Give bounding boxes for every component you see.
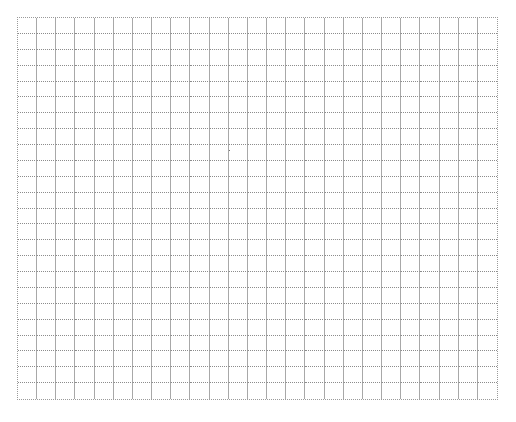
grid-cell bbox=[459, 177, 478, 193]
grid-cell bbox=[305, 256, 324, 272]
grid-cell bbox=[210, 256, 229, 272]
grid-cell bbox=[420, 336, 439, 352]
grid-cell bbox=[152, 161, 171, 177]
grid-cell bbox=[382, 145, 401, 161]
grid-cell bbox=[114, 177, 133, 193]
grid-cell bbox=[133, 193, 152, 209]
grid-cell bbox=[248, 97, 267, 113]
grid-cell bbox=[133, 50, 152, 66]
grid-cell bbox=[363, 367, 382, 383]
grid-cell bbox=[305, 320, 324, 336]
grid-cell bbox=[18, 320, 37, 336]
grid-cell bbox=[382, 304, 401, 320]
grid-cell bbox=[114, 193, 133, 209]
grid-cell bbox=[114, 82, 133, 98]
grid-cell bbox=[267, 66, 286, 82]
grid-cell bbox=[248, 113, 267, 129]
grid-cell bbox=[286, 66, 305, 82]
grid-cell bbox=[363, 34, 382, 50]
grid-cell bbox=[286, 320, 305, 336]
grid-cell bbox=[267, 288, 286, 304]
grid-cell bbox=[286, 272, 305, 288]
grid-cell bbox=[459, 193, 478, 209]
grid-cell bbox=[56, 50, 75, 66]
grid-cell bbox=[401, 367, 420, 383]
grid-cell bbox=[18, 82, 37, 98]
grid-cell bbox=[114, 272, 133, 288]
grid-cell bbox=[440, 97, 459, 113]
grid-cell bbox=[210, 224, 229, 240]
grid-cell bbox=[478, 367, 497, 383]
grid-cell bbox=[459, 18, 478, 34]
grid-cell bbox=[37, 256, 56, 272]
grid-cell bbox=[75, 177, 94, 193]
grid-cell bbox=[190, 34, 209, 50]
grid-cell bbox=[478, 82, 497, 98]
grid-cell bbox=[95, 320, 114, 336]
grid-cell bbox=[478, 50, 497, 66]
grid-cell bbox=[325, 18, 344, 34]
grid-cell bbox=[18, 288, 37, 304]
grid-cell bbox=[459, 97, 478, 113]
grid-cell bbox=[363, 288, 382, 304]
grid-cell bbox=[363, 66, 382, 82]
grid-cell bbox=[229, 336, 248, 352]
grid-cell bbox=[286, 193, 305, 209]
grid-cell bbox=[248, 304, 267, 320]
grid-cell bbox=[267, 256, 286, 272]
grid-cell bbox=[344, 193, 363, 209]
grid-cell bbox=[478, 177, 497, 193]
grid-cell bbox=[286, 209, 305, 225]
grid-cell bbox=[56, 145, 75, 161]
grid-cell bbox=[305, 224, 324, 240]
grid-cell bbox=[210, 145, 229, 161]
grid-cell bbox=[478, 161, 497, 177]
grid-cell bbox=[95, 193, 114, 209]
grid-cell bbox=[37, 97, 56, 113]
grid-cell bbox=[18, 97, 37, 113]
grid-cell bbox=[440, 82, 459, 98]
grid-cell bbox=[267, 177, 286, 193]
grid-cell bbox=[382, 209, 401, 225]
grid-cell bbox=[382, 113, 401, 129]
grid-cell bbox=[18, 34, 37, 50]
grid-cell bbox=[75, 336, 94, 352]
grid-cell bbox=[401, 304, 420, 320]
grid-cell bbox=[363, 145, 382, 161]
grid-cell bbox=[171, 304, 190, 320]
grid-cell bbox=[478, 383, 497, 399]
grid-cell bbox=[459, 50, 478, 66]
grid-cell bbox=[363, 351, 382, 367]
grid-cell bbox=[325, 34, 344, 50]
grid-cell bbox=[210, 272, 229, 288]
grid-cell bbox=[401, 145, 420, 161]
grid-cell bbox=[420, 66, 439, 82]
grid-cell bbox=[229, 272, 248, 288]
grid-cell bbox=[171, 18, 190, 34]
grid-cell bbox=[171, 145, 190, 161]
grid-cell bbox=[344, 272, 363, 288]
grid-cell bbox=[133, 240, 152, 256]
grid-cell bbox=[267, 304, 286, 320]
grid-cell bbox=[229, 351, 248, 367]
grid-cell bbox=[401, 336, 420, 352]
grid-cell bbox=[401, 209, 420, 225]
grid-cell bbox=[248, 34, 267, 50]
grid-cell bbox=[18, 351, 37, 367]
grid-cell bbox=[152, 209, 171, 225]
grid-cell bbox=[420, 50, 439, 66]
grid-cell bbox=[75, 288, 94, 304]
grid-cell bbox=[248, 18, 267, 34]
grid-cell bbox=[401, 320, 420, 336]
grid-cell bbox=[325, 304, 344, 320]
grid-cell bbox=[286, 34, 305, 50]
grid-cell bbox=[210, 50, 229, 66]
grid-cell bbox=[401, 351, 420, 367]
grid-cell bbox=[114, 113, 133, 129]
grid-cell bbox=[56, 367, 75, 383]
grid-cell bbox=[114, 34, 133, 50]
grid-cell bbox=[152, 367, 171, 383]
grid-cell bbox=[363, 129, 382, 145]
grid-cell bbox=[363, 336, 382, 352]
grid-cell bbox=[75, 272, 94, 288]
